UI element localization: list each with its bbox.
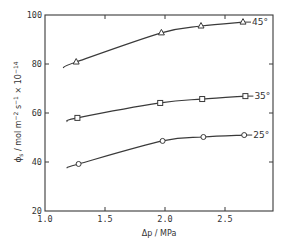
square-marker: [243, 94, 248, 99]
square-marker: [200, 97, 205, 102]
data-series: 45°35°25°: [63, 17, 270, 168]
y-axis-label-part: / mol m: [14, 120, 23, 153]
plot-border: [45, 15, 273, 211]
circle-marker: [76, 161, 81, 166]
x-tick-label: 1.5: [97, 214, 112, 224]
y-tick-label: 60: [32, 108, 42, 118]
plot-frame: [45, 15, 273, 211]
series-label: 45°: [252, 17, 268, 27]
y-tick-label: 20: [32, 206, 42, 216]
series-triangle: 45°: [63, 17, 268, 68]
square-marker: [75, 115, 80, 120]
x-tick-label: 2.5: [217, 214, 232, 224]
series-label: 25°: [253, 130, 269, 140]
series-square: 35°: [67, 91, 271, 121]
y-axis-label-part: × 10: [14, 74, 23, 96]
circle-marker: [201, 135, 206, 140]
series-label: 35°: [254, 91, 270, 101]
y-tick-label: 40: [32, 157, 42, 167]
series-curve: [67, 135, 245, 168]
circle-marker: [242, 133, 247, 138]
series-curve: [67, 96, 246, 121]
y-axis-label-part: −14: [12, 61, 19, 74]
x-tick-label: 2.0: [157, 214, 172, 224]
series-circle: 25°: [67, 130, 270, 168]
circle-marker: [160, 138, 165, 143]
y-axis-label-part: −2: [12, 111, 19, 120]
y-axis-label-part: −1: [12, 96, 19, 105]
y-axis-label: ϕs / mol m−2 s−1 × 10−14: [12, 61, 24, 162]
y-axis-label-part: s: [14, 105, 23, 112]
series-curve: [63, 22, 243, 68]
axis-ticks: 1.01.52.02.520406080100: [27, 10, 273, 224]
triangle-marker: [240, 19, 246, 25]
x-axis-label: Δp / MPa: [142, 229, 177, 238]
square-marker: [158, 100, 163, 105]
y-tick-label: 80: [32, 59, 42, 69]
chart: 1.01.52.02.520406080100 45°35°25° Δp / M…: [0, 0, 281, 243]
y-tick-label: 100: [27, 10, 42, 20]
